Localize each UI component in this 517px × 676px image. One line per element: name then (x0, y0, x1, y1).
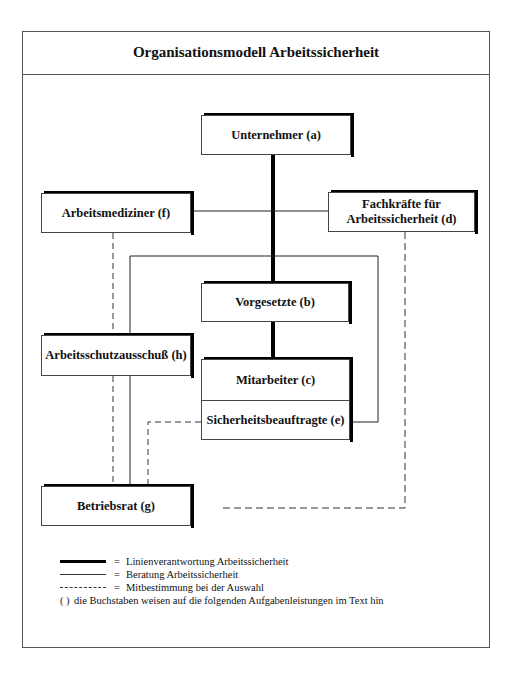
parentheses-icon: ( ) (60, 594, 74, 607)
legend-item-thin: = Beratung Arbeitssicherheit (60, 568, 384, 581)
node-fachkraefte: Fachkräfte für Arbeitssicherheit (d) (328, 192, 475, 232)
legend-item-dashed: = Mitbestimmung bei der Auswahl (60, 581, 384, 594)
node-label: Vorgesetzte (b) (235, 295, 315, 310)
node-label: Mitarbeiter (c) (236, 373, 315, 388)
legend-label: Beratung Arbeitssicherheit (126, 568, 238, 581)
node-label: Unternehmer (a) (231, 128, 321, 143)
node-sicherheitsbeauftragte: Sicherheitsbeauftragte (e) (201, 400, 350, 440)
node-label: Sicherheitsbeauftragte (e) (207, 413, 345, 428)
node-label: Betriebsrat (g) (77, 499, 155, 514)
node-betriebsrat: Betriebsrat (g) (41, 486, 191, 526)
node-label-line1: Fachkräfte für (362, 197, 441, 212)
node-vorgesetzte: Vorgesetzte (b) (201, 283, 349, 322)
legend-label: Mitbestimmung bei der Auswahl (126, 581, 264, 594)
node-label: Arbeitsschutzausschuß (h) (45, 348, 186, 363)
legend: = Linienverantwortung Arbeitssicherheit … (60, 555, 384, 607)
legend-label: Linienverantwortung Arbeitssicherheit (126, 555, 288, 568)
node-unternehmer: Unternehmer (a) (201, 115, 351, 155)
node-arbeitsmediziner: Arbeitsmediziner (f) (41, 193, 191, 233)
thin-line-icon (60, 568, 106, 581)
node-label: Arbeitsmediziner (f) (62, 206, 170, 221)
legend-note-text: die Buchstaben weisen auf die folgenden … (74, 594, 384, 607)
dashed-line-icon (60, 581, 106, 594)
legend-item-thick: = Linienverantwortung Arbeitssicherheit (60, 555, 384, 568)
node-arbeitsschutzausschuss: Arbeitsschutzausschuß (h) (41, 335, 191, 376)
thick-line-icon (60, 555, 106, 568)
node-mitarbeiter: Mitarbeiter (c) (201, 359, 350, 401)
legend-note: ( ) die Buchstaben weisen auf die folgen… (60, 594, 384, 607)
node-label-line2: Arbeitssicherheit (d) (346, 212, 456, 227)
dashed-line-sibe-betriebsrat (148, 422, 201, 485)
